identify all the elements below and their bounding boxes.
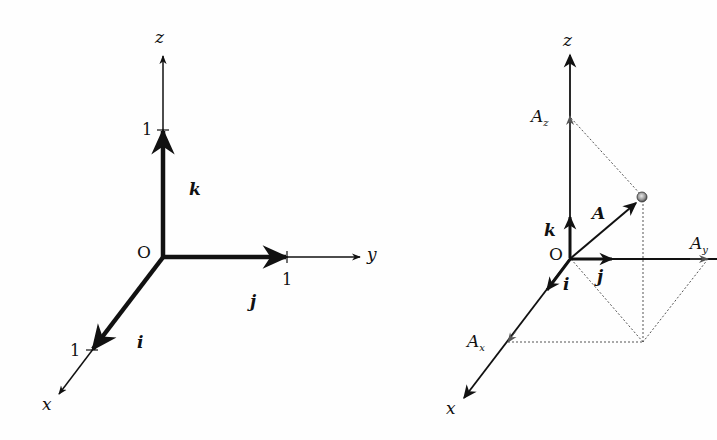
left-z-tick-label: 1 bbox=[142, 122, 152, 138]
diagram-svg bbox=[0, 0, 717, 440]
right-i-label: i bbox=[563, 276, 569, 293]
left-figure bbox=[59, 56, 360, 394]
Ay-base: A bbox=[690, 233, 702, 253]
diagram-canvas: z 1 k O y 1 j i 1 x z Az A k Ay O j i Ax… bbox=[0, 0, 717, 440]
Ax-sub: x bbox=[479, 342, 485, 353]
Ax-base: A bbox=[467, 331, 479, 351]
right-k-label: k bbox=[544, 222, 556, 239]
right-z-label: z bbox=[563, 32, 572, 49]
left-y-tick-label: 1 bbox=[282, 272, 292, 288]
left-j-label: j bbox=[250, 293, 256, 310]
vector-A-label: A bbox=[592, 205, 605, 222]
Ax-label: Ax bbox=[467, 333, 485, 350]
left-z-label: z bbox=[155, 29, 164, 46]
left-x-tick-label: 1 bbox=[70, 343, 80, 359]
Az-label: Az bbox=[531, 108, 549, 125]
left-k-label: k bbox=[189, 181, 201, 198]
point-A-tip bbox=[637, 192, 647, 202]
Ay-sub: y bbox=[702, 244, 708, 255]
left-i-vector bbox=[93, 256, 164, 349]
Ax-marker bbox=[508, 331, 516, 342]
Az-base: A bbox=[531, 106, 543, 126]
left-i-label: i bbox=[137, 334, 143, 351]
projection-lines bbox=[508, 118, 708, 342]
right-figure bbox=[464, 55, 717, 398]
left-x-label: x bbox=[42, 396, 52, 413]
left-y-label: y bbox=[367, 246, 377, 263]
Ay-label: Ay bbox=[690, 235, 708, 252]
right-x-label: x bbox=[446, 400, 456, 417]
right-origin-label: O bbox=[549, 246, 563, 263]
left-origin-label: O bbox=[137, 244, 151, 261]
Az-sub: z bbox=[543, 117, 548, 128]
right-j-label: j bbox=[597, 268, 603, 285]
